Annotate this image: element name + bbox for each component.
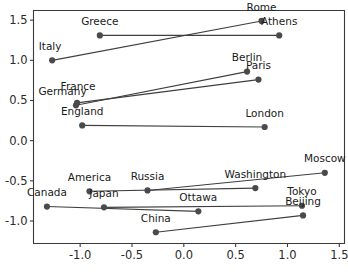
data-point-beijing[interactable] [300,212,306,218]
data-point-label-italy: Italy [39,40,62,52]
x-tick-label: 0.0 [175,248,193,262]
data-point-label-paris: Paris [246,59,271,71]
data-point-label-china: China [141,212,171,224]
pair-line-china-beijing [156,215,303,232]
data-point-canada[interactable] [44,203,50,209]
data-point-label-greece: Greece [81,15,118,27]
data-point-italy[interactable] [49,57,55,63]
x-axis-ticks: -1.0-0.50.00.51.01.5 [69,244,348,262]
data-point-greece[interactable] [97,32,103,38]
data-point-label-england: England [61,105,104,117]
y-tick-label: 0.5 [9,93,27,107]
data-point-label-rome: Rome [247,1,277,13]
data-point-label-russia: Russia [131,170,165,182]
data-point-london[interactable] [262,124,268,130]
data-point-label-america: America [68,171,111,183]
data-point-washington[interactable] [252,185,258,191]
x-tick-label: -1.0 [69,248,91,262]
pair-line-japan-tokyo [104,206,302,208]
data-point-china[interactable] [153,229,159,235]
scatter-plot: -1.0-0.50.00.51.01.5 -1.0-0.50.00.51.01.… [0,0,348,274]
data-point-label-london: London [245,107,284,119]
data-point-japan[interactable] [101,204,107,210]
y-tick-label: -0.5 [5,174,27,188]
pair-line-france-paris [77,80,258,103]
data-point-label-washington: Washington [224,168,286,180]
x-tick-label: -0.5 [121,248,143,262]
data-point-england[interactable] [79,122,85,128]
y-tick-label: 1.5 [9,13,27,27]
data-point-label-japan: Japan [88,187,118,199]
data-point-ottawa[interactable] [195,208,201,214]
x-tick-label: 0.5 [227,248,245,262]
data-point-russia[interactable] [144,187,150,193]
data-point-athens[interactable] [276,32,282,38]
data-point-label-canada: Canada [27,186,67,198]
figure-canvas: -1.0-0.50.00.51.01.5 -1.0-0.50.00.51.01.… [0,0,348,274]
data-point-label-beijing: Beijing [285,195,321,207]
data-point-labels: ItalyRomeGreeceAthensGermanyBerlinFrance… [27,1,346,224]
data-point-moscow[interactable] [322,170,328,176]
data-point-label-france: France [61,80,96,92]
y-tick-label: 1.0 [9,53,27,67]
x-tick-label: 1.0 [278,248,296,262]
pair-line-england-london [82,125,264,127]
data-point-label-moscow: Moscow [304,152,346,164]
data-point-label-athens: Athens [261,15,297,27]
data-point-label-ottawa: Ottawa [179,191,217,203]
y-tick-label: -1.0 [5,214,27,228]
data-point-paris[interactable] [255,76,261,82]
x-tick-label: 1.5 [330,248,348,262]
y-tick-label: 0.0 [9,134,27,148]
